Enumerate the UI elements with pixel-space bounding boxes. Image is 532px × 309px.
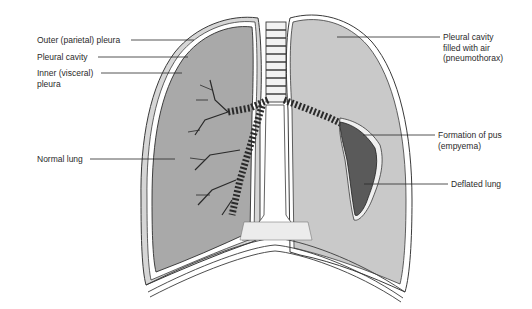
label-deflated-lung: Deflated lung [451,179,501,190]
label-inner-visceral-pleura: Inner (visceral) pleura [37,68,93,89]
label-outer-parietal-pleura: Outer (parietal) pleura [37,35,120,46]
label-empyema: Formation of pus (empyema) [438,130,502,151]
label-pneumothorax: Pleural cavity filled with air (pneumoth… [443,32,503,64]
trachea [266,22,286,102]
label-normal-lung: Normal lung [37,154,83,165]
label-pleural-cavity: Pleural cavity [37,52,88,63]
